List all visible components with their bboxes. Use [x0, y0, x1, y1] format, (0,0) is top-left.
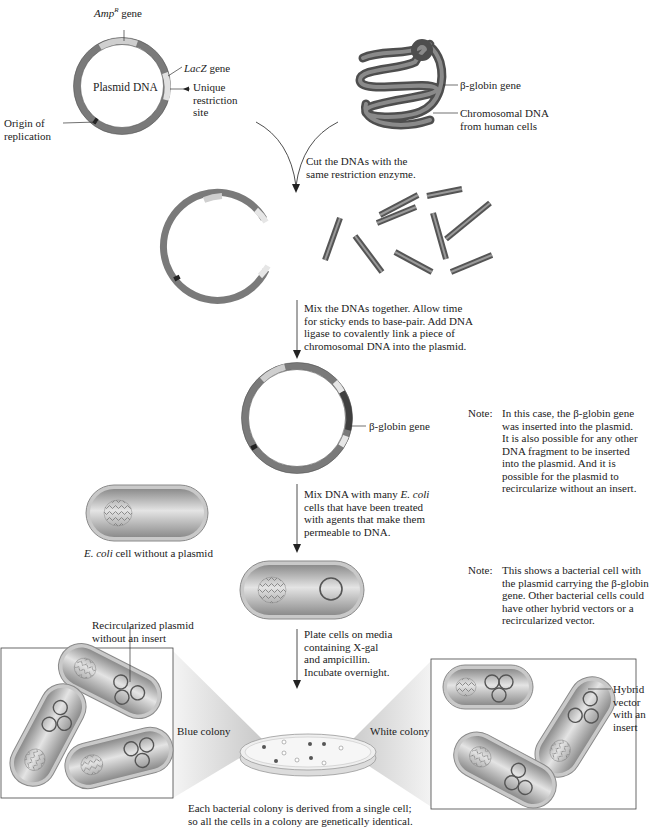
cut-plasmid: [163, 192, 268, 300]
white-colony-label: White colony: [370, 725, 430, 738]
step-plate-cells: Plate cells on media containing X-gal an…: [304, 628, 392, 678]
step-transform: Mix DNA with many E. coli cells that hav…: [304, 488, 429, 538]
plate-caption: Each bacterial colony is derived from a …: [188, 802, 413, 827]
blue-colony-label: Blue colony: [177, 725, 230, 738]
restriction-site-label: Unique restriction site: [193, 81, 238, 119]
note-bacterial-cell: Note:This shows a bacterial cell with th…: [468, 564, 649, 627]
chromosomal-dna-label: Chromosomal DNA from human cells: [460, 107, 549, 132]
ecoli-cell-without-plasmid: [86, 485, 208, 541]
recombinant-beta-globin-label: β-globin gene: [369, 420, 430, 433]
origin-of-replication-label: Origin of replication: [4, 117, 51, 142]
step-mix-ligate: Mix the DNAs together. Allow time for st…: [304, 302, 473, 352]
note-insertion: Note:In this case, the β-globin gene was…: [468, 407, 638, 495]
ecoli-cell-with-plasmid: [240, 561, 364, 619]
plasmid-dna-label: Plasmid DNA: [93, 81, 158, 94]
lacz-gene-label: LacZ gene: [184, 62, 230, 75]
recombinant-plasmid: [242, 363, 353, 474]
chromosomal-dna: [360, 42, 442, 125]
petri-plate: [240, 734, 376, 776]
hybrid-vector-label: Hybrid vector with an insert: [613, 683, 646, 733]
step-cut-dnas: Cut the DNAs with the same restriction e…: [306, 155, 416, 180]
beta-globin-gene-label: β-globin gene: [460, 79, 521, 92]
dna-fragments: [325, 189, 492, 272]
ampr-gene-label: AmpR gene: [94, 4, 142, 19]
recircularized-plasmid-label: Recircularized plasmid without an insert: [92, 619, 194, 644]
ecoli-without-plasmid-label: E. coli cell without a plasmid: [84, 547, 213, 560]
